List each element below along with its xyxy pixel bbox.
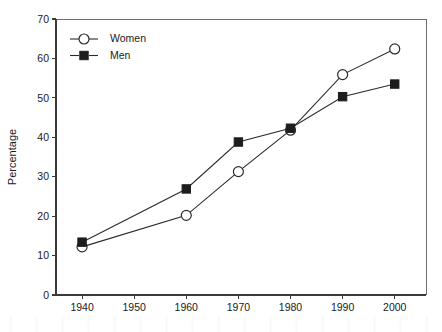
series-line-women	[82, 49, 395, 247]
y-tick-label: 40	[37, 131, 49, 143]
data-point-men-1960	[182, 185, 190, 193]
data-point-men-1970	[234, 138, 242, 146]
series-line-men	[82, 84, 395, 242]
x-tick-label: 1940	[70, 301, 94, 313]
y-tick-label: 50	[37, 92, 49, 104]
data-point-women-1960	[181, 210, 191, 220]
x-axis-ticks: 1940195019601970198019902000	[70, 295, 406, 313]
data-point-women-2000	[390, 44, 400, 54]
x-tick-label: 2000	[383, 301, 407, 313]
x-tick-label: 1970	[227, 301, 251, 313]
legend-label-women: Women	[110, 32, 146, 44]
y-tick-label: 10	[37, 249, 49, 261]
chart-legend: WomenMen	[70, 32, 146, 61]
data-point-men-1980	[286, 124, 294, 132]
legend-marker-men	[80, 51, 88, 59]
y-tick-label: 0	[43, 289, 49, 301]
data-point-women-1970	[233, 167, 243, 177]
data-point-men-1940	[78, 238, 86, 246]
x-tick-label: 1960	[175, 301, 199, 313]
legend-marker-women	[79, 34, 89, 44]
legend-item-women: Women	[70, 32, 146, 44]
legend-item-men: Men	[70, 49, 131, 61]
x-tick-label: 1980	[279, 301, 303, 313]
x-tick-label: 1990	[331, 301, 355, 313]
y-axis-label: Percentage	[6, 129, 18, 185]
y-axis-ticks: 010203040506070	[37, 13, 56, 301]
data-point-women-1990	[338, 70, 348, 80]
data-point-men-2000	[391, 80, 399, 88]
series-women	[77, 44, 400, 252]
series-men	[78, 80, 399, 247]
chart-figure: 010203040506070 194019501960197019801990…	[0, 0, 442, 332]
y-tick-label: 70	[37, 13, 49, 25]
y-tick-label: 20	[37, 210, 49, 222]
y-tick-label: 60	[37, 52, 49, 64]
series-layer	[77, 44, 400, 252]
data-point-men-1990	[338, 92, 346, 100]
line-chart-canvas: 010203040506070 194019501960197019801990…	[0, 0, 442, 332]
x-tick-label: 1950	[122, 301, 146, 313]
y-tick-label: 30	[37, 170, 49, 182]
legend-label-men: Men	[110, 49, 131, 61]
